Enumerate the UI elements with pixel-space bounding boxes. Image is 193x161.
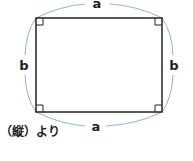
left-arc-top — [25, 18, 36, 55]
rectangle — [36, 18, 162, 112]
right-angle-marker-bottom-right — [155, 105, 162, 112]
left-arc-bottom — [25, 75, 36, 112]
label-bottom: a — [92, 119, 101, 134]
top-arc — [36, 4, 85, 18]
right-angle-marker-top-left — [36, 18, 43, 25]
label-left: b — [19, 58, 28, 73]
right-arc-bottom — [162, 75, 173, 112]
label-top: a — [93, 0, 102, 11]
right-arc-top — [162, 18, 173, 55]
right-angle-marker-bottom-left — [36, 105, 43, 112]
right-angle-marker-top-right — [155, 18, 162, 25]
bottom-arc-right — [106, 112, 162, 126]
caption-text: （縦）より — [0, 122, 60, 139]
top-arc-right — [110, 4, 162, 18]
label-right: b — [169, 58, 178, 73]
